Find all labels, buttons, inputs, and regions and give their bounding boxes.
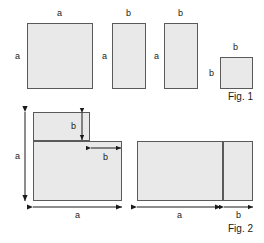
- label-rect1-left: a: [102, 52, 107, 61]
- label-rect2-left: a: [154, 52, 159, 61]
- square-a-by-a: [27, 23, 93, 89]
- label-square-a-left: a: [15, 52, 20, 61]
- label-left-height-a: a: [15, 152, 20, 161]
- label-square-a-top: a: [57, 9, 62, 18]
- figure-canvas: a a b a b a b b Fig. 1: [0, 0, 264, 243]
- label-left-inner-horizontal-b: b: [103, 153, 108, 162]
- square-b-by-b: [220, 57, 253, 89]
- label-left-inner-vertical-b: b: [71, 122, 76, 131]
- label-rect2-top: b: [178, 9, 183, 18]
- split-rectangle-divider: [222, 141, 224, 201]
- rectangle-a-by-b-first: [112, 23, 146, 89]
- label-left-width-a: a: [75, 211, 80, 220]
- l-shape-upper-rect: [33, 112, 90, 141]
- label-rect1-top: b: [126, 9, 131, 18]
- label-right-strip-b: b: [236, 211, 241, 220]
- fig2-caption: Fig. 2: [193, 224, 253, 234]
- fig1-caption: Fig. 1: [193, 92, 253, 102]
- label-right-main-a: a: [177, 211, 182, 220]
- split-rectangle: [137, 141, 253, 201]
- label-square-b-left: b: [209, 69, 214, 78]
- l-shape-lower-rect: [33, 141, 122, 201]
- label-square-b-top: b: [233, 43, 238, 52]
- rectangle-a-by-b-second: [164, 23, 198, 89]
